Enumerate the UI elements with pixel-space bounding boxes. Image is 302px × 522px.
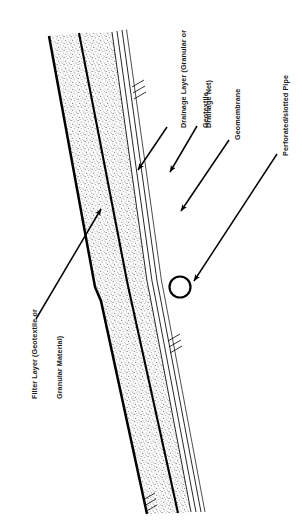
label-filter-layer-line1: Filter Layer (Geotextile or	[31, 309, 39, 399]
geotextile-leader	[170, 126, 197, 172]
drainage-layer-leader	[138, 127, 167, 170]
label-geotextile: Geotextile	[202, 92, 210, 128]
label-geomembrane: Geomembrane	[234, 89, 242, 140]
cross-section-drawing	[0, 0, 302, 522]
label-drainage-layer-line1: Drainage Layer (Granular or	[180, 30, 188, 128]
label-perforated-pipe: Perforated/slotted Pipe	[282, 75, 290, 156]
label-filter-layer: Filter Layer (Geotextile or Granular Mat…	[14, 309, 81, 399]
perforated-slotted-pipe-icon	[170, 277, 191, 298]
diagram-canvas: Drainage Layer (Granular or Drainage Net…	[0, 0, 302, 522]
label-filter-layer-line2: Granular Material)	[56, 309, 64, 399]
label-drainage-layer: Drainage Layer (Granular or Drainage Net…	[163, 30, 230, 128]
geomembrane-leader	[181, 140, 229, 211]
